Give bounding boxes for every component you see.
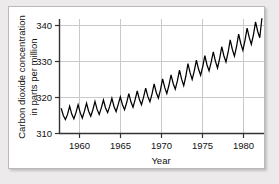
x-axis-title: Year [151, 155, 170, 166]
x-tick-label-1965: 1965 [110, 140, 131, 151]
figure-panel: 340 330 320 310 1960 1965 1970 1975 1980… [8, 6, 265, 169]
y-tick-label-310: 310 [36, 128, 52, 139]
co2-line-chart: 340 330 320 310 1960 1965 1970 1975 1980… [9, 7, 265, 169]
x-tick-label-1970: 1970 [151, 140, 172, 151]
y-axis-title-line1: Carbon dioxide concentration [16, 15, 27, 139]
x-tick-label-1960: 1960 [69, 140, 90, 151]
x-tick-label-1975: 1975 [192, 140, 213, 151]
page-background: 340 330 320 310 1960 1965 1970 1975 1980… [0, 0, 279, 184]
x-tick-label-1980: 1980 [233, 140, 254, 151]
y-axis-title-line2: in parts per million [28, 38, 39, 115]
y-tick-label-340: 340 [36, 20, 52, 31]
